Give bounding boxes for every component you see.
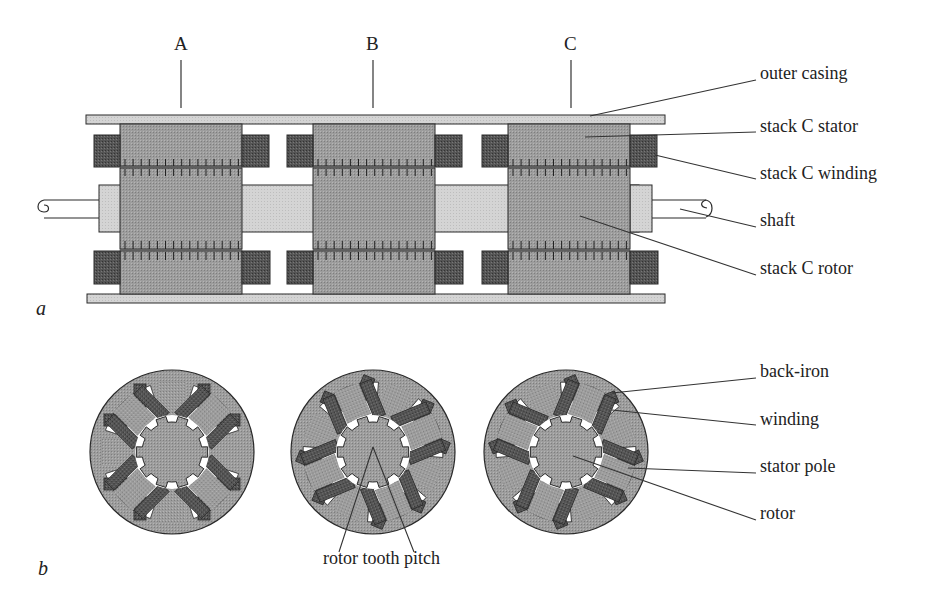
label-stack-c-winding: stack C winding: [760, 164, 877, 182]
winding-bottom-right: [435, 251, 463, 284]
panel-label-a: a: [36, 298, 46, 318]
stack-label-a: A: [174, 34, 188, 53]
callout-leader: [655, 155, 756, 179]
callout-leader: [628, 468, 756, 473]
shaft-left-rod: [44, 200, 99, 218]
rotor: [508, 168, 630, 249]
winding-bottom-left: [287, 251, 313, 284]
motor-cross-section: [282, 361, 465, 544]
winding-bottom-left: [94, 251, 120, 284]
stack-label-c: C: [564, 34, 577, 53]
stator-bottom: [508, 251, 630, 294]
winding-top-right: [435, 135, 462, 167]
winding-top-left: [287, 135, 313, 167]
label-outer-casing: outer casing: [760, 64, 847, 82]
outer-casing-top: [86, 115, 665, 124]
stator-bottom: [120, 251, 242, 294]
motor-diagram: A B C outer casing stack C stator stack …: [0, 0, 929, 590]
label-stator-pole: stator pole: [760, 457, 835, 475]
shaft-left-break: [38, 200, 49, 212]
motor-cross-section: [90, 370, 254, 534]
rotor: [136, 417, 207, 488]
stator-bottom: [313, 251, 435, 294]
stator-top: [508, 124, 630, 166]
panel-label-b: b: [38, 558, 48, 578]
panel-a-longitudinal-section: [38, 60, 712, 303]
callout-leader: [590, 80, 756, 116]
label-stack-c-stator: stack C stator: [760, 117, 858, 135]
winding-bottom-left: [482, 251, 508, 284]
shaft-right-rod: [652, 200, 706, 218]
label-winding: winding: [760, 410, 819, 428]
rotor: [530, 417, 601, 488]
shaft-right-end: [630, 185, 652, 232]
diagram-canvas: [0, 0, 929, 590]
stack-label-b: B: [366, 34, 379, 53]
outer-casing-bottom: [87, 294, 665, 303]
winding-top-right: [630, 135, 657, 167]
winding-bottom-right: [242, 251, 270, 284]
label-back-iron: back-iron: [760, 362, 829, 380]
motor-cross-section: [475, 361, 658, 544]
callout-leader: [612, 378, 756, 393]
stator-top: [313, 124, 435, 166]
stator-top: [120, 124, 242, 166]
rotor: [337, 417, 408, 488]
winding-top-left: [482, 135, 508, 167]
rotor: [313, 168, 435, 249]
rotor: [120, 168, 242, 249]
winding-top-right: [242, 135, 269, 167]
label-shaft: shaft: [760, 211, 795, 229]
label-rotor-tooth-pitch: rotor tooth pitch: [323, 549, 440, 567]
panel-b-cross-sections: [90, 361, 657, 544]
winding-bottom-right: [630, 251, 658, 284]
label-stack-c-rotor: stack C rotor: [760, 259, 853, 277]
winding-top-left: [94, 135, 120, 167]
label-rotor: rotor: [760, 504, 795, 522]
